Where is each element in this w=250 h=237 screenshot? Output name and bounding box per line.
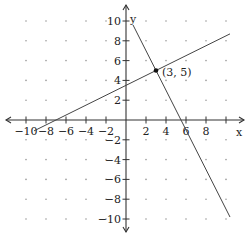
grid-dot (185, 99, 187, 101)
grid-dot (45, 179, 47, 181)
y-tick-label: −10 (98, 213, 121, 226)
grid-dot (165, 80, 167, 82)
x-tick-label: −4 (78, 125, 94, 138)
grid-dot (105, 80, 107, 82)
grid-dot (225, 218, 227, 220)
grid-dot (45, 198, 47, 200)
grid-dot (145, 40, 147, 42)
grid-dot (205, 40, 207, 42)
plotted-lines (34, 25, 230, 217)
y-axis-label: y (129, 13, 137, 26)
grid-dot (85, 40, 87, 42)
grid-dot (165, 218, 167, 220)
grid-dot (65, 179, 67, 181)
grid-dot (45, 139, 47, 141)
grid-dot (185, 159, 187, 161)
y-tick-label: −2 (105, 134, 121, 147)
grid-dot (25, 218, 27, 220)
grid-dot (185, 20, 187, 22)
grid-dot (25, 60, 27, 62)
x-tick-label: 2 (143, 125, 150, 138)
grid-dot (205, 179, 207, 181)
grid-dot (65, 198, 67, 200)
grid-dot (145, 139, 147, 141)
grid-dot (225, 139, 227, 141)
x-tick-label: 4 (163, 125, 170, 138)
y-tick-label: 2 (114, 94, 121, 107)
x-tick-label: −10 (14, 125, 37, 138)
grid-dot (85, 159, 87, 161)
y-tick-label: −8 (105, 193, 121, 206)
x-tick-label: −8 (38, 125, 54, 138)
grid-dot (225, 80, 227, 82)
grid-dot (85, 198, 87, 200)
y-tick-label: 6 (114, 55, 121, 68)
grid-dot (105, 40, 107, 42)
grid-dot (205, 218, 207, 220)
grid-dot (85, 99, 87, 101)
grid-dot (65, 60, 67, 62)
grid-dot (25, 40, 27, 42)
grid-dot (45, 218, 47, 220)
grid-dot (85, 20, 87, 22)
grid-dot (225, 20, 227, 22)
grid-dot (165, 99, 167, 101)
grid-dot (145, 159, 147, 161)
grid-dot (45, 60, 47, 62)
grid-dot (185, 40, 187, 42)
grid-dot (65, 218, 67, 220)
grid-dot (225, 179, 227, 181)
grid-dot (185, 60, 187, 62)
y-tick-label: −4 (105, 154, 121, 167)
grid-dot (25, 20, 27, 22)
steep-line (133, 25, 230, 217)
grid-dot (205, 60, 207, 62)
intersection-point (154, 68, 159, 73)
grid-dot (145, 198, 147, 200)
grid-dot (165, 139, 167, 141)
grid-dot (65, 159, 67, 161)
grid-dot (145, 20, 147, 22)
grid-dot (145, 80, 147, 82)
grid-dot (25, 179, 27, 181)
x-axis-label: x (236, 126, 243, 139)
grid-dot (65, 80, 67, 82)
grid-dot (165, 159, 167, 161)
grid-dot (45, 40, 47, 42)
grid-dot (65, 99, 67, 101)
y-tick-label: 4 (114, 74, 121, 87)
grid-dot (165, 20, 167, 22)
grid-dot (25, 198, 27, 200)
intersection-label: (3, 5) (162, 66, 192, 79)
grid-dot (105, 60, 107, 62)
y-tick-label: 8 (114, 35, 121, 48)
grid-dot (65, 40, 67, 42)
graph-svg: −10−8−6−4−22468108642−2−4−6−8−10 (3, 5) … (0, 0, 250, 237)
grid-dot (205, 99, 207, 101)
grid-dot (205, 198, 207, 200)
y-tick-label: 10 (107, 15, 121, 28)
grid-dot (185, 179, 187, 181)
grid-dot (165, 60, 167, 62)
grid-dot (185, 218, 187, 220)
grid-dot (225, 159, 227, 161)
grid-dot (225, 198, 227, 200)
grid-dot (185, 139, 187, 141)
x-tick-label: −6 (58, 125, 74, 138)
grid-dot (225, 99, 227, 101)
grid-dot (205, 20, 207, 22)
grid-dot (45, 20, 47, 22)
grid-dot (185, 80, 187, 82)
grid-dot (205, 80, 207, 82)
grid-dot (185, 198, 187, 200)
grid-dot (85, 139, 87, 141)
grid-dot (145, 218, 147, 220)
grid-dot (25, 139, 27, 141)
grid-dot (25, 80, 27, 82)
x-tick-label: 8 (203, 125, 210, 138)
grid-dot (85, 179, 87, 181)
grid-dot (225, 60, 227, 62)
grid-dot (85, 218, 87, 220)
grid-dot (145, 60, 147, 62)
grid-dot (165, 179, 167, 181)
